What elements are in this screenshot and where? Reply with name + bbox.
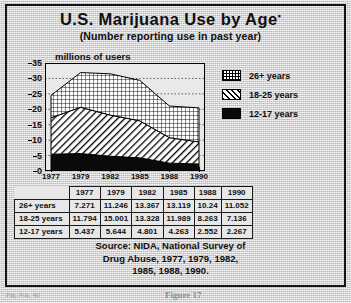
source-note: Source: NIDA, National Survey of Drug Ab… [0,240,341,278]
y-axis-label: millions of users [55,51,131,62]
table-corner-cell [15,187,70,200]
table-cell: 13.367 [132,200,163,213]
y-axis: 05101520253035 [0,63,42,171]
table-cell: 15.001 [100,213,131,226]
table-cell: 7.136 [221,213,252,226]
x-axis-tick-1979: 1979 [72,172,90,181]
source-line-3: 1985, 1988, 1990. [0,265,341,278]
x-tick-mark [199,167,200,172]
legend-item-26-years: 26+ years [222,70,298,81]
source-line-1: Source: NIDA, National Survey of [0,240,341,253]
table-cell: 2.552 [194,226,221,239]
y-axis-tick-5: 5 [37,151,42,161]
table-cell: 11.052 [221,200,252,213]
table-cell: 2.267 [221,226,252,239]
y-tick-mark [28,78,32,79]
table-col-header-1985: 1985 [163,187,194,200]
y-tick-mark [28,63,32,64]
table-header-row: 197719791982198519881990 [15,187,253,200]
legend-item-18-25-years: 18-25 years [222,89,298,100]
table-col-header-1990: 1990 [221,187,252,200]
table-cell: 11.246 [100,200,131,213]
table-cell: 4.263 [163,226,194,239]
table-cell: 13.119 [163,200,194,213]
table-cell: 10.24 [194,200,221,213]
chart-title: U.S. Marijuana Use by Age▪ [0,10,341,29]
y-tick-mark [33,156,37,157]
chart-subtitle: (Number reporting use in past year) [0,30,341,42]
y-axis-tick-10: 10 [32,135,42,145]
table-row-label: 18-25 years [15,213,70,226]
table-cell: 13.328 [132,213,163,226]
x-axis-tick-1990: 1990 [190,172,208,181]
legend-item-12-17-years: 12-17 years [222,108,298,119]
table-col-header-1982: 1982 [132,187,163,200]
table-col-header-1977: 1977 [69,187,100,200]
y-axis-tick-15: 15 [32,120,42,130]
table-row: 12-17 years5.4375.6444.8014.2632.5522.26… [15,226,253,239]
y-axis-tick-25: 25 [32,89,42,99]
caption-right: Figure 17 [165,290,202,300]
data-table: 197719791982198519881990 26+ years7.2711… [14,186,253,239]
chart-title-text: U.S. Marijuana Use by Age [60,10,278,28]
x-tick-mark [140,167,141,172]
y-axis-tick-30: 30 [32,73,42,83]
y-tick-mark [33,171,37,172]
diagonal-stripe-icon [222,89,241,100]
y-tick-mark [28,125,32,126]
title-footnote-marker: ▪ [277,11,281,21]
legend-label: 12-17 years [249,109,298,119]
x-axis-tick-1988: 1988 [160,172,178,181]
x-tick-mark [81,167,82,172]
plot-area [45,63,205,171]
table-row: 26+ years7.27111.24613.36713.11910.2411.… [15,200,253,213]
table-cell: 7.271 [69,200,100,213]
y-tick-mark [28,140,32,141]
crosshatch-icon [222,70,241,81]
table-body: 26+ years7.27111.24613.36713.11910.2411.… [15,200,253,239]
table-row-label: 26+ years [15,200,70,213]
table-cell: 5.644 [100,226,131,239]
table-cell: 5.437 [69,226,100,239]
source-line-2: Drug Abuse, 1977, 1979, 1982, [0,253,341,266]
table-cell: 4.801 [132,226,163,239]
table-col-header-1988: 1988 [194,187,221,200]
y-axis-tick-20: 20 [32,104,42,114]
solid-black-icon [222,108,241,119]
x-tick-mark [169,167,170,172]
x-tick-mark [110,167,111,172]
caption-left: Fig. Nat. 40 [6,291,39,299]
legend-label: 18-25 years [249,90,298,100]
x-tick-mark [51,167,52,172]
x-axis-tick-1982: 1982 [101,172,119,181]
x-axis-tick-1977: 1977 [42,172,60,181]
table-cell: 8.263 [194,213,221,226]
table-cell: 11.989 [163,213,194,226]
table-col-header-1979: 1979 [100,187,131,200]
table-row-label: 12-17 years [15,226,70,239]
legend-label: 26+ years [249,71,290,81]
table-row: 18-25 years11.79415.00113.32811.9898.263… [15,213,253,226]
chart-legend: 26+ years18-25 years12-17 years [222,70,298,127]
x-axis: 197719791982198519881990 [45,172,205,186]
stacked-area-chart [45,63,205,171]
y-tick-mark [28,109,32,110]
x-axis-tick-1985: 1985 [131,172,149,181]
y-tick-mark [28,94,32,95]
table-cell: 11.794 [69,213,100,226]
y-axis-tick-35: 35 [32,58,42,68]
